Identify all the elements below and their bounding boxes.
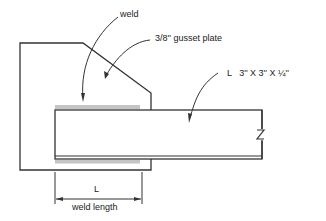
angle-label: L 3'' X 3'' X ¼''	[227, 69, 289, 78]
gusset-leader-arrow	[107, 40, 150, 74]
arrowhead-icon	[81, 93, 85, 102]
weld-bottom	[55, 160, 140, 164]
weld-top	[55, 105, 140, 109]
gusset-plate-label: 3/8'' gusset plate	[155, 34, 222, 43]
weld-label: weld	[120, 10, 139, 19]
dimension-symbol: L	[94, 185, 99, 194]
weld-leader-arrow	[83, 17, 118, 98]
arrowhead-icon	[56, 197, 63, 201]
angle-member	[55, 110, 262, 159]
arrowhead-icon	[134, 197, 141, 201]
weld-length-label: weld length	[72, 203, 118, 212]
